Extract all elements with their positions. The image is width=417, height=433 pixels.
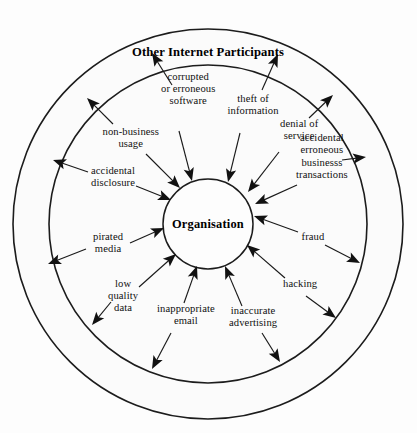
threat-label-accidental-disclosure: accidentaldisclosure [91,165,135,190]
threat-label-line: advertising [229,317,277,329]
threat-label-line: transactions [296,169,348,181]
threat-label-inaccurate-advertising: inaccurateadvertising [229,305,277,330]
threat-label-line: low [108,278,138,290]
threat-label-line: inaccurate [229,305,277,317]
threat-label-line: data [108,302,138,314]
threat-label-line: fraud [302,231,325,243]
threat-label-line: email [157,315,215,327]
threat-label-corrupted-or-erroneous-software: corruptedor erroneoussoftware [161,71,215,108]
threat-label-inappropriate-email: inappropriateemail [157,303,215,328]
threat-label-fraud: fraud [302,231,325,243]
threat-label-line: accidental [91,165,135,177]
threat-label-line: businesss [296,157,348,169]
diagram-title: Other Internet Participants [132,45,284,60]
center-label-organisation: Organisation [172,217,244,232]
threat-label-line: information [228,105,279,117]
threat-label-line: inappropriate [157,303,215,315]
threat-label-line: accidental [296,132,348,144]
threat-label-line: non-business [103,126,160,138]
threat-label-line: or erroneous [161,83,215,95]
threat-label-low-quality-data: lowqualitydata [108,278,138,315]
threat-label-line: quality [108,290,138,302]
threat-label-line: disclosure [91,177,135,189]
threat-label-line: erroneous [296,144,348,156]
threat-label-line: usage [103,138,160,150]
threat-label-non-business-usage: non-businessusage [103,126,160,151]
threat-label-line: hacking [283,278,317,290]
threat-label-theft-of-information: theft ofinformation [228,93,279,118]
threat-label-line: software [161,95,215,107]
threat-label-line: media [93,243,123,255]
threat-label-accidental-erroneous-businesss-transactions: accidentalerroneousbusinessstransactions [296,132,348,182]
threat-label-hacking: hacking [283,278,317,290]
threat-label-line: denial of [280,118,318,130]
threat-label-line: corrupted [161,71,215,83]
threat-model-diagram: Other Internet Participants Organisation… [0,0,417,433]
threat-label-line: pirated [93,231,123,243]
threat-label-pirated-media: piratedmedia [93,231,123,256]
threat-label-line: theft of [228,93,279,105]
